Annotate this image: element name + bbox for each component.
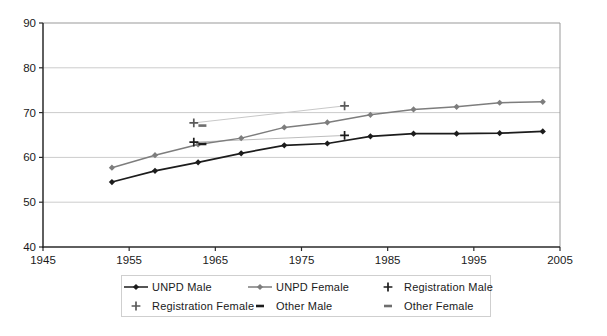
diamond-marker [410, 106, 416, 112]
diamond-marker [540, 128, 546, 134]
legend-item-unpd-female: UNPD Female [248, 277, 376, 296]
legend-item-registration-female: Registration Female [124, 296, 248, 315]
legend-item-unpd-male: UNPD Male [124, 277, 248, 296]
other-male-dash-icon [248, 300, 272, 312]
diamond-marker [454, 104, 460, 110]
diamond-marker [238, 150, 244, 156]
y-tick-label: 40 [23, 241, 36, 253]
plus-marker [189, 119, 198, 128]
diamond-marker [152, 168, 158, 174]
registration-connector-line [194, 106, 345, 123]
diamond-marker [497, 130, 503, 136]
x-tick-label: 1985 [375, 254, 401, 266]
y-tick-label: 70 [23, 107, 36, 119]
legend-item-other-male: Other Male [248, 296, 376, 315]
legend-item-registration-male: Registration Male [376, 277, 488, 296]
chart-figure: 4050607080901945195519651975198519952005… [0, 0, 607, 336]
x-tick-label: 1995 [461, 254, 487, 266]
legend-label: UNPD Male [152, 281, 212, 293]
y-tick-label: 60 [23, 151, 36, 163]
plus-marker [340, 131, 349, 140]
diamond-marker [133, 283, 139, 289]
other-female-dash-icon [376, 300, 400, 312]
legend-label: Other Male [276, 300, 332, 312]
diamond-marker [109, 165, 115, 171]
diamond-marker [109, 179, 115, 185]
x-tick-label: 1945 [30, 254, 56, 266]
legend-label: Registration Male [404, 281, 493, 293]
legend-item-other-female: Other Female [376, 296, 488, 315]
diamond-marker [257, 283, 263, 289]
plus-marker [384, 282, 393, 291]
series-line [112, 131, 543, 182]
plus-marker [132, 301, 141, 310]
diamond-marker [410, 131, 416, 137]
unpd-female-line-diamond-icon [248, 281, 272, 293]
diamond-marker [195, 159, 201, 165]
unpd-male-line-diamond-icon [124, 281, 148, 293]
diamond-marker [324, 119, 330, 125]
diamond-marker [497, 100, 503, 106]
x-tick-label: 1965 [203, 254, 229, 266]
diamond-marker [454, 131, 460, 137]
legend-label: Other Female [404, 300, 474, 312]
x-tick-label: 1955 [116, 254, 142, 266]
y-tick-label: 90 [23, 17, 36, 29]
legend-label: UNPD Female [276, 281, 349, 293]
diamond-marker [324, 140, 330, 146]
diamond-marker [540, 99, 546, 105]
plus-marker [340, 101, 349, 110]
y-tick-label: 80 [23, 62, 36, 74]
x-tick-label: 1975 [289, 254, 315, 266]
diamond-marker [367, 133, 373, 139]
registration-female-plus-icon [124, 300, 148, 312]
registration-male-plus-icon [376, 281, 400, 293]
chart-legend: UNPD Male UNPD Female Registration Male … [121, 275, 491, 317]
legend-label: Registration Female [152, 300, 254, 312]
diamond-marker [281, 124, 287, 130]
x-tick-label: 2005 [547, 254, 573, 266]
y-tick-label: 50 [23, 196, 36, 208]
diamond-marker [281, 142, 287, 148]
